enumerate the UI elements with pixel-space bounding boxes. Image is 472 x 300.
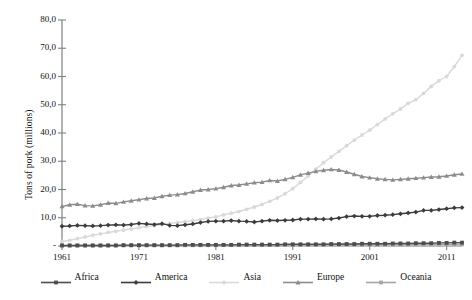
data-point-marker: [437, 241, 441, 245]
data-point-marker: [252, 205, 256, 209]
data-point-marker: [68, 238, 72, 242]
data-point-marker: [306, 242, 310, 246]
data-point-marker: [75, 223, 80, 228]
data-point-marker: [345, 144, 349, 148]
data-point-marker: [275, 196, 279, 200]
data-point-marker: [352, 242, 356, 246]
data-point-marker: [452, 65, 456, 69]
data-point-marker: [322, 242, 326, 246]
data-point-marker: [60, 224, 65, 229]
data-point-marker: [99, 244, 103, 248]
legend-item-oceania[interactable]: Oceania: [366, 272, 431, 282]
data-point-marker: [391, 112, 395, 116]
data-point-marker: [283, 218, 288, 223]
data-point-marker: [222, 213, 226, 217]
legend-item-africa[interactable]: Africa: [41, 272, 99, 282]
data-point-marker: [129, 243, 133, 247]
legend-marker-icon: [41, 273, 71, 282]
data-point-marker: [244, 219, 249, 224]
data-point-marker: [360, 133, 364, 137]
data-point-marker: [98, 223, 103, 228]
data-point-marker: [260, 219, 265, 224]
data-point-marker: [429, 208, 434, 213]
y-axis-tick-label: 70,0: [12, 42, 56, 52]
data-point-marker: [437, 79, 441, 83]
data-point-marker: [299, 181, 303, 185]
data-point-marker: [383, 117, 387, 121]
data-point-marker: [344, 214, 349, 219]
data-point-marker: [391, 242, 395, 246]
chart-legend: AfricaAmericaAsiaEuropeOceania: [0, 272, 472, 282]
data-point-marker: [422, 92, 426, 96]
legend-item-asia[interactable]: Asia: [209, 272, 260, 282]
data-point-marker: [75, 237, 79, 241]
data-point-marker: [375, 213, 380, 218]
data-point-marker: [91, 233, 95, 237]
data-point-marker: [83, 244, 87, 248]
y-axis-tick-label: 60,0: [12, 71, 56, 81]
data-point-marker: [83, 223, 88, 228]
data-point-marker: [245, 243, 249, 247]
data-point-marker: [437, 207, 442, 212]
data-point-marker: [133, 280, 138, 285]
data-point-marker: [260, 243, 264, 247]
data-point-marker: [90, 224, 95, 229]
x-axis-tick-label: 2011: [422, 252, 472, 262]
data-point-marker: [368, 242, 372, 246]
data-point-marker: [223, 280, 227, 284]
data-point-marker: [337, 216, 342, 221]
data-point-marker: [237, 219, 242, 224]
series-asia: [60, 53, 464, 243]
legend-label: Oceania: [400, 272, 431, 282]
legend-marker-icon: [283, 273, 313, 282]
data-point-marker: [229, 218, 234, 223]
data-point-marker: [67, 224, 72, 229]
data-point-marker: [183, 243, 187, 247]
data-point-marker: [114, 244, 118, 248]
data-point-marker: [291, 242, 295, 246]
x-axis-tick-label: 1971: [114, 252, 164, 262]
data-point-marker: [175, 243, 179, 247]
data-point-marker: [337, 149, 341, 153]
data-point-marker: [83, 235, 87, 239]
data-point-marker: [445, 241, 449, 245]
data-point-marker: [129, 222, 134, 227]
data-point-marker: [406, 211, 411, 216]
data-point-marker: [99, 232, 103, 236]
series-america: [60, 205, 465, 228]
data-point-marker: [352, 214, 357, 219]
data-point-marker: [275, 218, 280, 223]
data-point-marker: [183, 222, 188, 227]
data-point-marker: [60, 244, 64, 248]
data-point-marker: [360, 242, 364, 246]
data-point-marker: [314, 242, 318, 246]
series-line: [62, 169, 462, 206]
data-point-marker: [91, 244, 95, 248]
data-point-marker: [190, 222, 195, 227]
data-point-marker: [298, 217, 303, 222]
data-point-marker: [367, 214, 372, 219]
data-point-marker: [375, 123, 379, 127]
y-axis-tick-label: -: [12, 240, 56, 250]
data-point-marker: [122, 228, 126, 232]
data-point-marker: [106, 244, 110, 248]
data-point-marker: [168, 243, 172, 247]
data-point-marker: [429, 84, 433, 88]
data-point-marker: [444, 206, 449, 211]
data-point-marker: [306, 217, 311, 222]
data-point-marker: [414, 98, 418, 102]
data-point-marker: [390, 212, 395, 217]
data-point-marker: [199, 243, 203, 247]
data-point-marker: [252, 243, 256, 247]
data-point-marker: [113, 222, 118, 227]
data-point-marker: [275, 243, 279, 247]
data-point-marker: [299, 242, 303, 246]
data-point-marker: [129, 227, 133, 231]
data-point-marker: [460, 205, 465, 210]
legend-item-america[interactable]: America: [121, 272, 188, 282]
data-point-marker: [175, 223, 180, 228]
legend-item-europe[interactable]: Europe: [283, 272, 344, 282]
y-axis-tick-label: 80,0: [12, 14, 56, 24]
data-point-marker: [383, 213, 388, 218]
data-point-marker: [214, 243, 218, 247]
